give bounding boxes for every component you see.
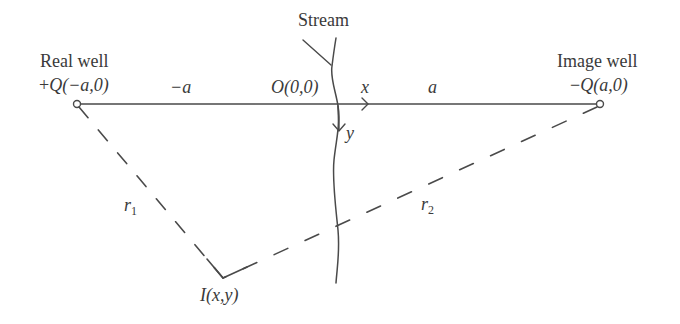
real-well-args: (−a,0) xyxy=(62,75,109,95)
r1-dashed-line xyxy=(79,107,223,278)
y-axis-line xyxy=(338,106,339,130)
real-well-label: Real well xyxy=(40,51,108,71)
real-well-coordinates: +Q(−a,0) xyxy=(39,75,109,95)
point-I-label: I(x,y) xyxy=(200,285,238,305)
diagram-canvas: Stream Real well +Q(−a,0) Image well −Q(… xyxy=(0,0,680,324)
r1-label: r1 xyxy=(124,195,137,221)
pos-a-label: a xyxy=(428,77,437,97)
x-axis-label: x xyxy=(361,77,369,97)
r1-base: r xyxy=(124,195,131,215)
diagram-graphics xyxy=(0,0,680,324)
origin-label: O(0,0) xyxy=(271,77,319,97)
neg-a-label: −a xyxy=(170,77,191,97)
real-well-Q: Q xyxy=(49,75,62,95)
image-well-label: Image well xyxy=(557,51,637,71)
image-well-coordinates: −Q(a,0) xyxy=(570,75,628,95)
image-well-sign: − xyxy=(570,75,580,95)
real-well-sign: + xyxy=(39,75,49,95)
image-well-args: (a,0) xyxy=(593,75,628,95)
stream-curve xyxy=(332,38,339,283)
r2-label: r2 xyxy=(421,194,434,220)
r2-base: r xyxy=(421,194,428,214)
image-well-Q: Q xyxy=(580,75,593,95)
r1-subscript: 1 xyxy=(131,204,137,218)
r2-dashed-line xyxy=(223,107,597,278)
stream-label: Stream xyxy=(298,10,349,30)
y-axis-label: y xyxy=(346,123,354,143)
r2-subscript: 2 xyxy=(428,203,434,217)
point-I-corner xyxy=(207,259,247,278)
stream-leader-line xyxy=(303,40,331,65)
